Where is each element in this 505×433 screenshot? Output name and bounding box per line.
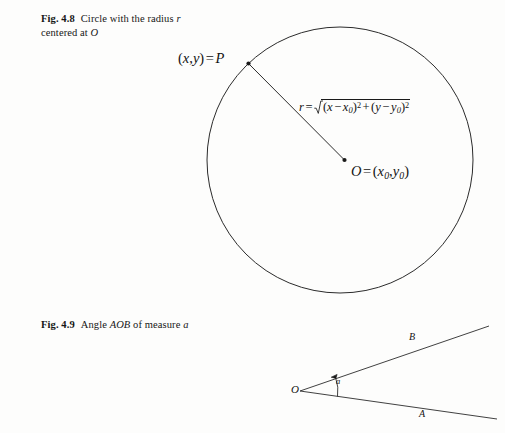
figure-4-8-caption-text-1: Circle with the radius (81, 13, 177, 24)
center-o-label: O=(x0,y0) (351, 163, 409, 181)
figure-4-9-caption: Fig. 4.9Angle AOB of measure a (41, 318, 201, 332)
angle-vertex-o-label: O (291, 383, 299, 395)
center-o-dot (342, 158, 346, 162)
angle-point-a-label: A (419, 408, 425, 419)
figure-4-9-caption-text-2: of measure (130, 319, 183, 330)
point-p-name: P (215, 50, 224, 66)
circle-outline (207, 27, 473, 293)
term1-x: x (327, 100, 333, 114)
figure-4-9-caption-text-1: Angle (81, 319, 110, 330)
radius-equals: = (304, 100, 314, 114)
term2-y: y (375, 100, 381, 114)
figure-4-8-caption-italic-r: r (176, 13, 180, 24)
figure-4-9-number: Fig. 4.9 (41, 319, 75, 330)
point-p-equals: = (204, 50, 215, 66)
figure-4-8-caption-text-2: centered at (41, 27, 91, 38)
figure-4-8-number: Fig. 4.8 (41, 13, 75, 24)
term2-exponent: 2 (405, 101, 409, 110)
textbook-figure-page: Fig. 4.8Circle with the radius r centere… (0, 0, 505, 433)
center-o-equals: = (361, 163, 372, 179)
angle-point-b-label: B (409, 331, 415, 342)
figure-4-9-caption-italic-aob: AOB (110, 319, 131, 330)
radicand-plus: + (361, 100, 371, 114)
figure-4-8-caption-italic-o: O (91, 27, 99, 38)
figure-4-9-caption-italic-a: a (183, 319, 188, 330)
term2-minus: − (381, 100, 391, 114)
square-root-icon (314, 100, 323, 114)
ray-ob (300, 326, 489, 391)
center-close-paren: ) (404, 163, 409, 179)
point-p-dot (246, 61, 250, 65)
radicand: (x−x0)2+(y−y0)2 (321, 99, 410, 114)
point-p-label: (x,y)=P (178, 50, 224, 67)
term1-minus: − (333, 100, 343, 114)
figure-4-8-caption: Fig. 4.8Circle with the radius r centere… (41, 12, 191, 39)
center-o-name: O (351, 163, 361, 179)
center-x: x (378, 163, 384, 179)
term2-y0: y (391, 100, 397, 114)
ray-oa (300, 391, 497, 419)
radius-formula-label: r=(x−x0)2+(y−y0)2 (299, 100, 410, 115)
angle-measure-label: a (336, 376, 340, 386)
figures-drawing-layer (0, 0, 505, 433)
